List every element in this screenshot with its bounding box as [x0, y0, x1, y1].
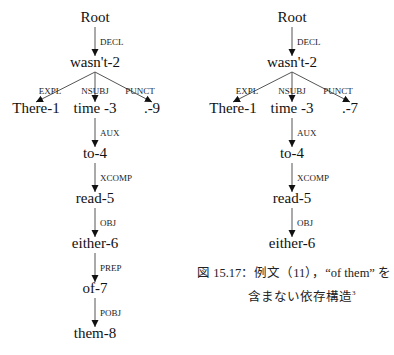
edge-label-decl: DECL — [100, 37, 124, 47]
tree-node-n2: wasn't-2 — [267, 54, 317, 70]
tree-node-n7: .-7 — [342, 100, 359, 116]
edge-label-pobj: POBJ — [100, 308, 122, 318]
edge-label-aux: AUX — [100, 128, 120, 138]
tree-node-n2: wasn't-2 — [70, 54, 120, 70]
tree-node-n4: to-4 — [83, 145, 108, 161]
dependency-tree-full: DECLEXPLNSUBJPUNCTAUXXCOMPOBJPREPPOBJRoo… — [12, 9, 160, 341]
edge-label-obj: OBJ — [100, 218, 117, 228]
tree-node-n6: either-6 — [269, 235, 316, 251]
edge-label-xcomp: XCOMP — [100, 173, 132, 183]
tree-node-n9: .-9 — [144, 100, 160, 116]
dependency-tree-without-of-them: DECLEXPLNSUBJPUNCTAUXXCOMPOBJRootwasn't-… — [209, 9, 358, 251]
tree-node-n4: to-4 — [280, 145, 305, 161]
tree-node-root: Root — [277, 9, 307, 25]
tree-node-n1: There-1 — [209, 100, 256, 116]
edge-label-expl: EXPL — [39, 86, 62, 96]
edge-label-punct: PUNCT — [125, 86, 155, 96]
footnote-mark: 3 — [352, 289, 356, 297]
edge-label-prep: PREP — [100, 263, 122, 273]
tree-node-n6: either-6 — [72, 235, 119, 251]
edge-label-nsubj: NSUBJ — [278, 86, 306, 96]
tree-node-n7: of-7 — [83, 280, 108, 296]
tree-node-n1: There-1 — [12, 100, 59, 116]
edge-label-decl: DECL — [297, 37, 321, 47]
caption-text-line-1: 図 15.17：例文（11），“of them” を — [197, 266, 391, 280]
edge-label-expl: EXPL — [236, 86, 259, 96]
edge-label-punct: PUNCT — [323, 86, 353, 96]
tree-node-root: Root — [80, 9, 110, 25]
tree-node-n3: time -3 — [271, 100, 314, 116]
figure-caption-line-1: 図 15.17：例文（11），“of them” を — [197, 262, 391, 281]
edge-label-xcomp: XCOMP — [297, 173, 329, 183]
tree-node-n5: read-5 — [273, 190, 311, 206]
tree-node-n8: them-8 — [74, 325, 117, 341]
edge-label-aux: AUX — [297, 128, 317, 138]
caption-text-line-2: 含まない依存構造 — [248, 290, 352, 304]
tree-node-n5: read-5 — [76, 190, 114, 206]
figure-caption-line-2: 含まない依存構造3 — [248, 286, 356, 305]
edge-label-obj: OBJ — [297, 218, 314, 228]
edge-label-nsubj: NSUBJ — [81, 86, 109, 96]
tree-node-n3: time -3 — [74, 100, 117, 116]
